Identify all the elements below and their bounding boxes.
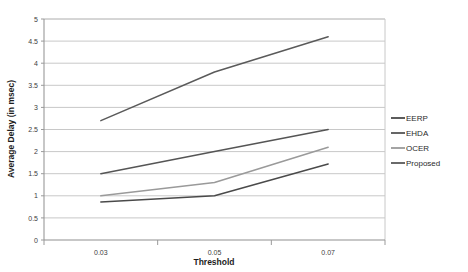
chart-canvas: 00.511.522.533.544.55 0.030.050.07 Thres…	[0, 0, 468, 272]
y-tick-label: 3	[34, 104, 38, 111]
legend-label-ehda: EHDA	[406, 129, 429, 138]
y-tick-label: 0.5	[28, 215, 38, 222]
y-tick-label: 0	[34, 237, 38, 244]
y-tick-label: 4.5	[28, 38, 38, 45]
line-chart: 00.511.522.533.544.55 0.030.050.07 Thres…	[0, 0, 468, 272]
y-axis-tick-labels: 00.511.522.533.544.55	[28, 16, 38, 244]
legend-label-ocer: OCER	[406, 144, 429, 153]
x-axis-tick-labels: 0.030.050.07	[94, 249, 335, 256]
legend-label-proposed: Proposed	[406, 159, 440, 168]
x-axis-title: Threshold	[193, 257, 234, 267]
x-tick-label: 0.03	[94, 249, 108, 256]
y-axis-title: Average Delay (in msec)	[6, 80, 16, 178]
y-tick-label: 3.5	[28, 82, 38, 89]
chart-legend: EERPEHDAOCERProposed	[391, 114, 440, 168]
y-tick-label: 1	[34, 192, 38, 199]
x-tick-label: 0.05	[208, 249, 222, 256]
y-tick-label: 2.5	[28, 126, 38, 133]
y-tick-label: 1.5	[28, 170, 38, 177]
y-tick-label: 2	[34, 148, 38, 155]
x-axis-ticks	[44, 240, 385, 245]
legend-label-eerp: EERP	[406, 114, 428, 123]
x-tick-label: 0.07	[321, 249, 335, 256]
y-tick-label: 5	[34, 16, 38, 23]
y-tick-label: 4	[34, 60, 38, 67]
